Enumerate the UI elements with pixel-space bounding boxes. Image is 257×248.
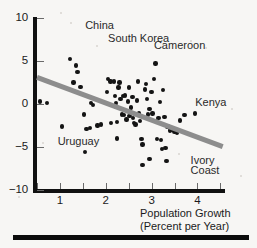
data-point [147,157,151,161]
data-point [109,121,113,125]
scan-speckle [231,108,233,110]
y-tick-1 [37,61,44,62]
data-point [78,85,82,89]
data-point [140,142,144,146]
data-point [75,70,79,74]
data-point [129,105,133,109]
scan-speckle [18,196,20,198]
data-point [158,100,162,104]
y-tick-4 [37,190,44,191]
x-minor-tick-2 [129,183,130,189]
data-point [144,82,148,86]
data-point [127,85,131,89]
data-point [152,77,156,81]
data-point [115,120,119,124]
country-label-cameroon: Cameroon [154,40,205,52]
y-tick-2 [37,104,44,105]
y-tick-label-0: 10 [0,11,28,23]
x-axis-spine [33,189,225,193]
data-point [71,80,75,84]
country-label-uruguay: Uruguay [58,136,100,148]
x-axis-title-line1: Population Growth [140,207,231,220]
data-point [116,85,120,89]
data-point [91,103,95,107]
x-axis-title-line2: (Percent per Year) [140,220,231,233]
scan-speckle [60,12,62,14]
data-point [193,111,197,115]
x-tick-0 [60,183,61,189]
data-point [99,122,103,126]
data-point [114,104,118,108]
data-point [178,118,182,122]
data-point [162,115,166,119]
data-point [182,113,186,117]
data-point [137,111,141,115]
data-point [145,97,149,101]
y-tick-3 [37,147,44,148]
x-minor-tick-0 [37,183,38,189]
data-point [140,163,144,167]
data-point [163,146,167,150]
data-point [153,61,157,65]
y-tick-label-2: 0 [0,97,28,109]
data-point [149,90,153,94]
country-label-china: China [85,20,114,32]
country-label-coast: Coast [191,165,220,177]
data-point [161,88,165,92]
scan-speckle [205,47,207,49]
data-point [143,87,147,91]
scan-speckle [70,22,72,24]
x-minor-tick-1 [83,183,84,189]
data-point [82,112,86,116]
data-point [159,138,163,142]
data-point [139,137,143,141]
x-axis-title: Population Growth (Percent per Year) [140,207,231,232]
data-point [88,126,92,130]
data-point [113,94,117,98]
y-tick-label-4: −10 [0,183,28,195]
scatter-plot-figure: 1050−5−10 1234 ChinaSouth KoreaCameroonK… [0,0,257,248]
y-tick-label-3: −5 [0,140,28,152]
data-point [133,122,137,126]
data-point [38,99,42,103]
data-point [83,150,87,154]
scan-speckle [190,40,192,42]
data-point [175,130,179,134]
data-point [117,80,121,84]
scan-speckle [96,45,98,47]
y-tick-label-1: 5 [0,54,28,66]
x-minor-tick-4 [220,183,221,189]
data-point [115,136,119,140]
data-point [136,79,140,83]
data-point [45,101,49,105]
x-minor-tick-3 [175,183,176,189]
data-point [126,99,130,103]
data-point [74,63,78,67]
y-axis-spine [33,17,37,193]
data-point [138,119,142,123]
data-point [156,116,160,120]
data-point [60,124,64,128]
country-label-kenya: Kenya [195,97,226,109]
data-point [112,79,116,83]
scan-speckle [240,175,242,177]
x-tick-label-3: 4 [187,194,207,206]
x-tick-2 [152,183,153,189]
data-point [150,111,154,115]
x-tick-1 [106,183,107,189]
scan-speckle [178,153,180,155]
x-tick-3 [197,183,198,189]
x-tick-label-1: 2 [96,194,116,206]
data-point [105,90,109,94]
scan-speckle [42,142,44,144]
x-tick-label-2: 3 [142,194,162,206]
data-point [164,159,168,163]
data-point [130,95,134,99]
data-point [68,57,72,61]
data-point [131,116,135,120]
data-point [123,93,127,97]
page-bottom-rule [13,235,249,240]
y-tick-0 [37,18,44,19]
x-tick-label-0: 1 [50,194,70,206]
data-point [135,98,139,102]
